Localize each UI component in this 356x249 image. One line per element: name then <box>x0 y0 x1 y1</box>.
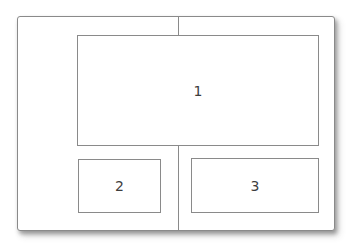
region-box-1: 1 <box>77 35 319 146</box>
region-3-label: 3 <box>251 179 260 193</box>
top-connector-line <box>178 17 179 35</box>
bottom-connector-line <box>178 146 179 231</box>
figure-canvas: 1 2 3 <box>0 0 356 249</box>
region-2-label: 2 <box>115 179 124 193</box>
outer-frame: 1 2 3 <box>17 16 335 231</box>
region-box-3: 3 <box>191 158 319 213</box>
region-1-label: 1 <box>194 84 203 98</box>
region-box-2: 2 <box>78 159 161 213</box>
